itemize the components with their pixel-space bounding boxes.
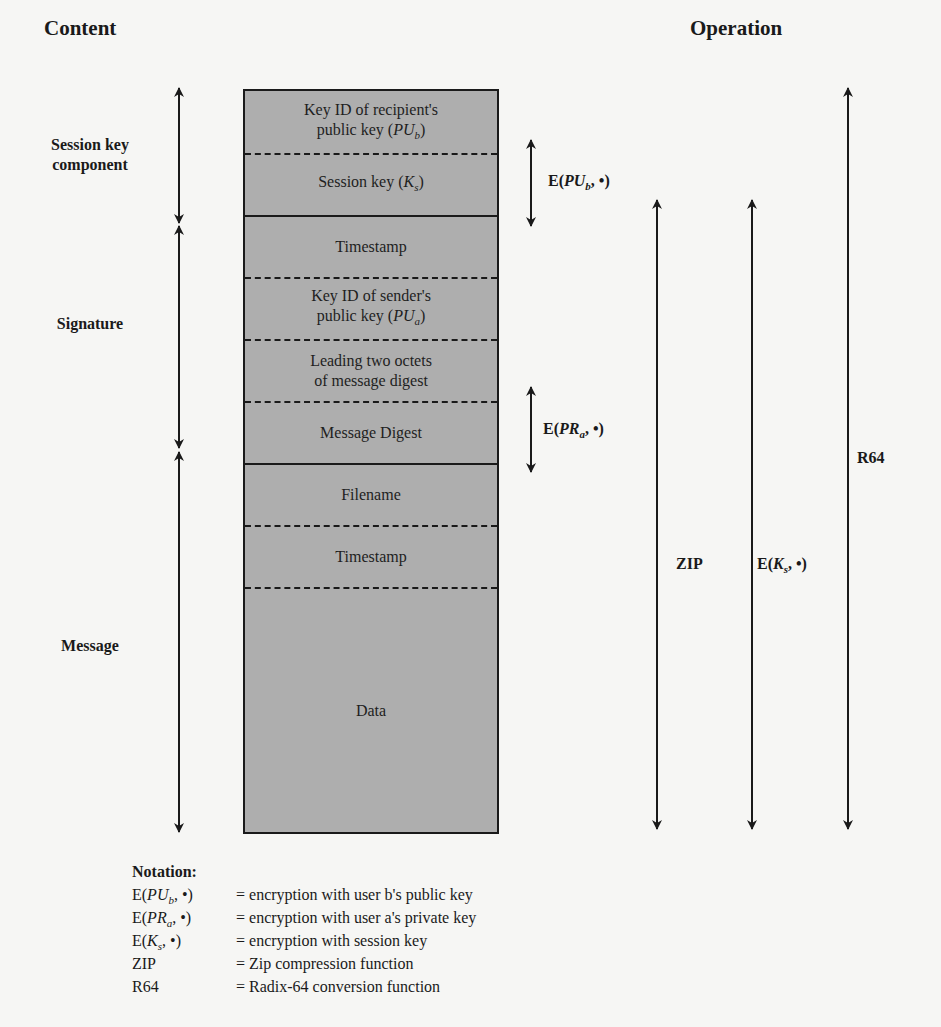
packet-field: Message Digest <box>245 402 497 464</box>
packet-field: Session key (Ks) <box>245 154 497 216</box>
field-label-line: Message Digest <box>320 423 422 443</box>
notation-definition: = encryption with session key <box>236 929 427 952</box>
packet-field: Key ID of recipient'spublic key (PUb) <box>245 91 497 154</box>
field-label-line: Key ID of sender's <box>311 286 431 306</box>
notation-legend: Notation: E(PUb, •)= encryption with use… <box>132 860 632 1000</box>
field-label-line: Session key (Ks) <box>318 172 424 197</box>
operation-span-arrows <box>531 88 848 829</box>
field-label-line: Timestamp <box>335 547 406 567</box>
notation-definition: = Radix-64 conversion function <box>236 975 440 998</box>
packet-field: Leading two octetsof message digest <box>245 340 497 402</box>
packet-field: Key ID of sender'spublic key (PUa) <box>245 278 497 340</box>
field-label-line: public key (PUa) <box>311 306 431 331</box>
packet-field: Timestamp <box>245 216 497 278</box>
notation-definition: = encryption with user b's public key <box>236 883 473 906</box>
notation-term: R64 <box>132 975 159 998</box>
e-pra-label: E(PRa, •) <box>543 420 604 440</box>
field-label-line: Data <box>356 701 386 721</box>
e-ks-label: E(Ks, •) <box>757 555 807 575</box>
notation-term: ZIP <box>132 952 156 975</box>
e-pub-label: E(PUb, •) <box>548 172 610 192</box>
field-label-line: Filename <box>341 485 401 505</box>
zip-label: ZIP <box>676 555 703 573</box>
field-label-line: of message digest <box>310 371 432 391</box>
packet-field: Filename <box>245 464 497 526</box>
notation-definition: = encryption with user a's private key <box>236 906 476 929</box>
notation-definition: = Zip compression function <box>236 952 413 975</box>
pgp-message-packet: Key ID of recipient'spublic key (PUb)Ses… <box>243 89 499 834</box>
field-label-line: Timestamp <box>335 237 406 257</box>
notation-title: Notation: <box>132 860 197 883</box>
field-label-line: public key (PUb) <box>304 120 438 145</box>
field-label-line: Leading two octets <box>310 351 432 371</box>
field-label-line: Key ID of recipient's <box>304 100 438 120</box>
packet-field: Timestamp <box>245 526 497 588</box>
packet-field: Data <box>245 588 497 834</box>
r64-label: R64 <box>857 449 885 467</box>
